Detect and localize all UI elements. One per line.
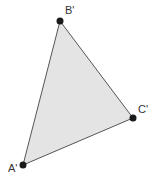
- vertex-label-c: C': [138, 104, 148, 115]
- diagram-canvas: A' B' C': [0, 0, 154, 178]
- vertex-label-a: A': [8, 163, 17, 174]
- vertex-label-b: B': [65, 5, 74, 16]
- triangle-abc-prime: [23, 21, 133, 165]
- triangle-figure: [0, 0, 154, 178]
- vertex-point-c: [130, 115, 137, 122]
- vertex-point-b: [57, 18, 64, 25]
- vertex-point-a: [20, 162, 27, 169]
